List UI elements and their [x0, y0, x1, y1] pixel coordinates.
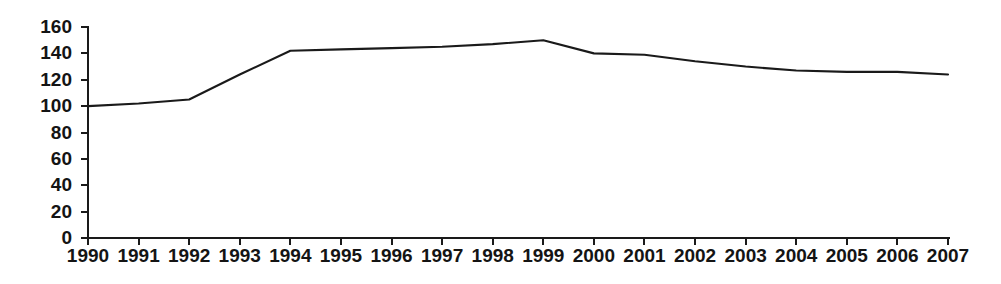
- chart-canvas: 020406080100120140160 199019911992199319…: [0, 0, 1001, 284]
- y-tick-labels: 020406080100120140160: [40, 16, 72, 248]
- x-tick-label: 2005: [826, 245, 869, 266]
- x-tick-label: 1991: [117, 245, 160, 266]
- x-tick-label: 1994: [269, 245, 312, 266]
- x-tick-label: 1996: [370, 245, 412, 266]
- x-tick-label: 1999: [522, 245, 564, 266]
- axes-group: [88, 26, 950, 238]
- y-tick-label: 60: [51, 148, 72, 169]
- x-tick-label: 2004: [775, 245, 818, 266]
- y-tick-label: 40: [51, 174, 72, 195]
- x-tick-label: 1995: [320, 245, 363, 266]
- y-tick-label: 20: [51, 201, 72, 222]
- y-tick-label: 160: [40, 16, 72, 37]
- y-tick-label: 120: [40, 69, 72, 90]
- x-tick-label: 1997: [421, 245, 463, 266]
- line-chart: 020406080100120140160 199019911992199319…: [0, 0, 1001, 284]
- x-tick-label: 2000: [573, 245, 615, 266]
- y-tick-label: 140: [40, 42, 72, 63]
- x-tick-label: 2003: [725, 245, 767, 266]
- x-tick-label: 2002: [674, 245, 716, 266]
- x-tick-label: 2007: [927, 245, 969, 266]
- y-tick-marks: [81, 27, 88, 238]
- x-tick-labels: 1990199119921993199419951996199719981999…: [67, 245, 969, 266]
- y-tick-label: 80: [51, 122, 72, 143]
- x-tick-label: 2001: [623, 245, 666, 266]
- x-tick-label: 1998: [472, 245, 514, 266]
- x-tick-label: 2006: [876, 245, 918, 266]
- x-tick-marks: [88, 238, 948, 245]
- y-tick-label: 100: [40, 95, 72, 116]
- x-tick-label: 1992: [168, 245, 210, 266]
- series-line-index: [88, 40, 948, 106]
- x-tick-label: 1993: [219, 245, 261, 266]
- x-tick-label: 1990: [67, 245, 109, 266]
- data-series-group: [88, 40, 948, 106]
